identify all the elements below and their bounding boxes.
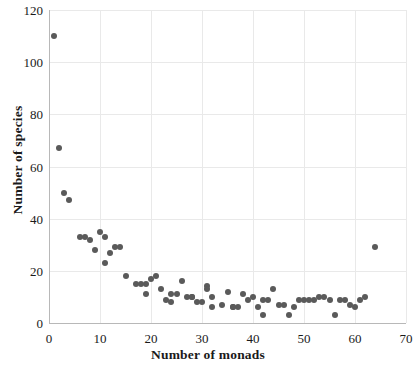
data-point	[209, 304, 215, 310]
data-point	[199, 299, 205, 305]
x-tick-label: 30	[182, 332, 222, 345]
data-point	[158, 286, 164, 292]
data-point	[352, 304, 358, 310]
data-point	[209, 294, 215, 300]
x-axis-line	[49, 323, 406, 324]
gridline-horizontal	[49, 271, 406, 272]
data-point	[219, 302, 225, 308]
data-point	[51, 33, 57, 39]
data-point	[66, 197, 72, 203]
gridline-vertical	[304, 10, 305, 323]
x-tick-label: 0	[29, 332, 69, 345]
gridline-vertical	[406, 10, 407, 323]
gridline-vertical	[100, 10, 101, 323]
data-point	[250, 294, 256, 300]
data-point	[327, 297, 333, 303]
data-point	[179, 278, 185, 284]
data-point	[143, 281, 149, 287]
data-point	[372, 244, 378, 250]
x-tick-label: 60	[335, 332, 375, 345]
gridline-horizontal	[49, 62, 406, 63]
gridline-horizontal	[49, 10, 406, 11]
data-point	[362, 294, 368, 300]
data-point	[153, 273, 159, 279]
data-point	[260, 312, 266, 318]
gridline-horizontal	[49, 219, 406, 220]
data-point	[102, 260, 108, 266]
data-point	[281, 302, 287, 308]
data-point	[255, 304, 261, 310]
gridline-vertical	[202, 10, 203, 323]
data-point	[87, 237, 93, 243]
data-point	[117, 244, 123, 250]
data-point	[240, 291, 246, 297]
y-tick-label: 20	[3, 265, 43, 278]
x-tick-label: 40	[233, 332, 273, 345]
data-point	[286, 312, 292, 318]
data-point	[204, 286, 210, 292]
data-point	[168, 299, 174, 305]
x-axis-title: Number of monads	[0, 347, 416, 363]
gridline-vertical	[253, 10, 254, 323]
data-point	[61, 190, 67, 196]
data-point	[143, 291, 149, 297]
data-point	[265, 297, 271, 303]
data-point	[235, 304, 241, 310]
y-axis-title: Number of species	[10, 80, 26, 240]
scatter-chart: 020406080100120010203040506070 Number of…	[0, 0, 416, 365]
gridline-horizontal	[49, 167, 406, 168]
data-point	[102, 234, 108, 240]
data-point	[270, 286, 276, 292]
data-point	[56, 145, 62, 151]
x-tick-label: 10	[80, 332, 120, 345]
x-tick-label: 20	[131, 332, 171, 345]
data-point	[123, 273, 129, 279]
gridline-vertical	[355, 10, 356, 323]
y-tick-label: 120	[3, 4, 43, 17]
data-point	[332, 312, 338, 318]
data-point	[92, 247, 98, 253]
y-tick-label: 100	[3, 56, 43, 69]
x-tick-label: 50	[284, 332, 324, 345]
x-tick-label: 70	[386, 332, 416, 345]
gridline-horizontal	[49, 114, 406, 115]
plot-area	[49, 10, 406, 323]
y-tick-label: 0	[3, 317, 43, 330]
data-point	[107, 250, 113, 256]
data-point	[174, 291, 180, 297]
data-point	[342, 297, 348, 303]
y-axis-line	[49, 10, 50, 323]
data-point	[291, 304, 297, 310]
data-point	[225, 289, 231, 295]
